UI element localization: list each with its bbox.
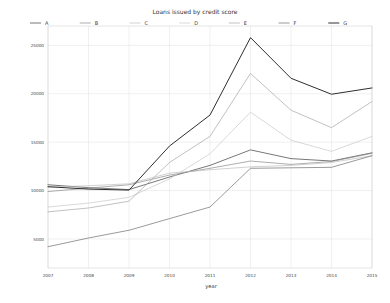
chart-legend: ABCDEFG (30, 20, 347, 26)
y-tick-label: 25000 (31, 43, 45, 48)
legend-label-B: B (95, 20, 99, 26)
legend-label-G: G (343, 20, 347, 26)
x-tick-label: 2010 (164, 273, 175, 278)
chart-title: Loans issued by credit score (153, 8, 238, 16)
x-tick-label: 2012 (245, 273, 256, 278)
line-chart: 500010000150002000025000 200720082009201… (0, 0, 390, 303)
x-tick-label: 2007 (43, 273, 54, 278)
legend-label-A: A (45, 20, 49, 26)
x-axis-label: year (205, 283, 217, 290)
x-tick-label: 2008 (83, 273, 94, 278)
gridlines (48, 26, 372, 268)
x-tick-label: 2015 (367, 273, 378, 278)
x-tick-label: 2009 (124, 273, 135, 278)
y-tick-label: 20000 (31, 91, 45, 96)
x-tick-label: 2013 (286, 273, 297, 278)
x-tick-label: 2011 (205, 273, 216, 278)
legend-label-E: E (244, 20, 247, 26)
legend-label-C: C (144, 20, 148, 26)
legend-label-F: F (294, 20, 297, 26)
x-tick-label: 2014 (326, 273, 337, 278)
y-axis-ticks: 500010000150002000025000 (31, 43, 45, 242)
x-axis-ticks: 200720082009201020112012201320142015 (43, 273, 378, 278)
y-tick-label: 15000 (31, 140, 45, 145)
chart-figure: 500010000150002000025000 200720082009201… (0, 0, 390, 303)
y-tick-label: 5000 (33, 237, 44, 242)
legend-label-D: D (194, 20, 198, 26)
y-tick-label: 10000 (31, 188, 45, 193)
